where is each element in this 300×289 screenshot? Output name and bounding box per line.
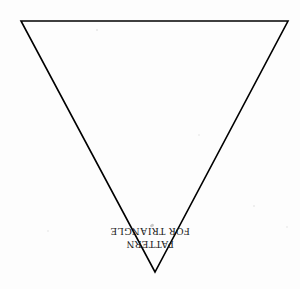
caption-line-1: PATTERN [0,237,300,250]
scanned-page: PATTERN FOR TRIANGLE [0,0,300,289]
pattern-caption: PATTERN FOR TRIANGLE [0,225,300,250]
caption-line-2: FOR TRIANGLE [0,225,300,238]
